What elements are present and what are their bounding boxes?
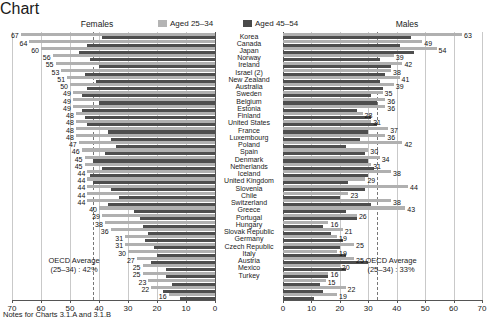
bar-aged-25-34 (87, 192, 215, 195)
bar-aged-25-34 (283, 228, 343, 231)
bar-aged-25-34 (111, 228, 215, 231)
bar-aged-25-34 (76, 112, 215, 115)
bar-aged-25-34 (283, 127, 388, 130)
bar-aged-25-34 (137, 257, 215, 260)
bar-aged-25-34 (283, 177, 365, 180)
bar-aged-25-34 (61, 69, 215, 72)
bar-aged-25-34 (85, 163, 216, 166)
axis-tick (99, 300, 100, 303)
country-label: Greece (215, 206, 283, 213)
axis-tick-label: 70 (478, 304, 487, 313)
country-label: Netherlands (215, 163, 283, 170)
bar-aged-25-34 (283, 214, 357, 217)
footer-note: Notes for Charts 3.1.A and 3.1.B (3, 310, 111, 319)
bar-aged-25-34 (283, 235, 337, 238)
bar-aged-25-34 (283, 120, 371, 123)
bar-aged-25-34 (283, 83, 394, 86)
axis-tick-label: 20 (153, 304, 162, 313)
x-axis-line (283, 300, 482, 301)
gridline-70 (482, 32, 483, 300)
axis-tick-label: 60 (449, 304, 458, 313)
bar-aged-25-34 (283, 250, 337, 253)
bar-aged-25-34 (73, 98, 215, 101)
country-label: Sweden (215, 90, 283, 97)
country-label-column: KoreaCanadaJapanNorwayIrelandIsrael (2)N… (215, 32, 283, 300)
bar-aged-25-34 (82, 148, 215, 151)
bar-aged-25-34 (73, 91, 215, 94)
bar-aged-25-34 (56, 62, 216, 65)
chart-header: Females Males Aged 25–34 Aged 45–54 (0, 18, 494, 31)
bar-aged-25-34 (283, 163, 371, 166)
country-label: Israel (2) (215, 69, 283, 76)
country-label: Mexico (215, 264, 283, 271)
axis-tick (186, 300, 187, 303)
country-label: Korea (215, 33, 283, 40)
females-oecd-line1: OECD Average (28, 256, 120, 265)
bar-aged-25-34 (73, 105, 215, 108)
bar-aged-25-34 (76, 134, 215, 137)
country-label: Turkey (215, 272, 283, 279)
country-label: Slovenia (215, 185, 283, 192)
males-x-axis: 010203040506070 (283, 300, 482, 314)
country-label: Switzerland (215, 199, 283, 206)
bar-aged-25-34 (283, 54, 394, 57)
bar-aged-25-34 (283, 98, 385, 101)
bar-aged-25-34 (283, 221, 328, 224)
country-label: Czech Republic (215, 243, 283, 250)
bar-aged-25-34 (87, 199, 215, 202)
country-label: United Kingdom (215, 177, 283, 184)
males-panel-title: Males (352, 19, 462, 29)
country-label: Chile (215, 192, 283, 199)
bar-aged-25-34 (76, 127, 215, 130)
country-label: United States (215, 119, 283, 126)
country-label: Luxembourg (215, 134, 283, 141)
axis-tick (128, 300, 129, 303)
bar-aged-25-34 (283, 33, 462, 36)
bar-aged-25-34 (21, 33, 215, 36)
axis-tick (215, 300, 216, 303)
axis-tick (41, 300, 42, 303)
axis-tick-label: 30 (364, 304, 373, 313)
axis-tick-label: 0 (213, 304, 217, 313)
bar-aged-25-34 (283, 69, 391, 72)
bar-aged-25-34 (169, 293, 215, 296)
bar-aged-25-34 (128, 250, 215, 253)
bar-aged-25-34 (283, 272, 328, 275)
axis-tick (397, 300, 398, 303)
bar-aged-25-34 (53, 54, 215, 57)
axis-tick (311, 300, 312, 303)
bar-aged-25-34 (283, 76, 400, 79)
bar-aged-25-34 (283, 279, 326, 282)
bar-aged-25-34 (29, 40, 215, 43)
bar-aged-25-34 (283, 134, 385, 137)
bar-aged-25-34 (67, 76, 215, 79)
females-oecd-line2: (25–34) : 42% (28, 265, 120, 274)
bar-aged-25-34 (151, 286, 215, 289)
country-label: Norway (215, 54, 283, 61)
bar-aged-25-34 (283, 105, 385, 108)
country-label: Denmark (215, 156, 283, 163)
axis-tick (70, 300, 71, 303)
bar-aged-25-34 (102, 214, 215, 217)
country-label: Portugal (215, 214, 283, 221)
bar-aged-25-34 (105, 221, 215, 224)
country-label: Estonia (215, 105, 283, 112)
bar-aged-25-34 (283, 192, 348, 195)
bar-aged-25-34 (283, 47, 437, 50)
bar-aged-25-34 (283, 62, 402, 65)
bar-aged-25-34 (87, 170, 215, 173)
bar-aged-25-34 (99, 206, 215, 209)
country-label: Germany (215, 235, 283, 242)
country-label: Finland (215, 112, 283, 119)
bar-aged-25-34 (283, 264, 340, 267)
bar-aged-25-34 (79, 141, 215, 144)
axis-tick-label: 50 (421, 304, 430, 313)
legend-label-aged-25-34: Aged 25–34 (170, 19, 213, 28)
bar-aged-25-34 (283, 199, 391, 202)
country-label: Belgium (215, 98, 283, 105)
legend-swatch-icon-aged-45-54 (243, 20, 252, 27)
bar-aged-25-34 (283, 243, 354, 246)
axis-tick (283, 300, 284, 303)
bar-aged-25-34 (283, 156, 380, 159)
bar-aged-25-34 (85, 156, 216, 159)
